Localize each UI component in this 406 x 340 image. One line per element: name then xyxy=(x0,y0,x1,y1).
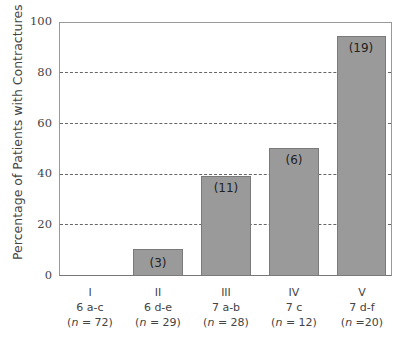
y-tick-40: 40 xyxy=(22,166,52,180)
y-tick-80: 80 xyxy=(22,65,52,79)
x-category-V: V7 d-f (n =20) xyxy=(327,285,397,330)
bar-label-IV: (6) xyxy=(269,153,319,167)
y-tick-100: 100 xyxy=(22,14,52,28)
bar-IV xyxy=(269,148,319,276)
y-tick-0: 0 xyxy=(22,268,52,282)
x-category-IV: IV7 c (n = 12) xyxy=(259,285,329,330)
y-tick-20: 20 xyxy=(22,217,52,231)
x-category-I: I6 a-c (n = 72) xyxy=(55,285,125,330)
x-category-III: III7 a-b (n = 28) xyxy=(191,285,261,330)
y-tick-60: 60 xyxy=(22,116,52,130)
bar-V xyxy=(337,36,386,276)
x-category-II: II6 d-e (n = 29) xyxy=(123,285,193,330)
bar-label-III: (11) xyxy=(201,181,251,195)
bar-chart: Percentage of Patients with Contractures… xyxy=(0,0,406,340)
bar-label-V: (19) xyxy=(336,41,386,55)
bar-label-II: (3) xyxy=(133,256,183,270)
